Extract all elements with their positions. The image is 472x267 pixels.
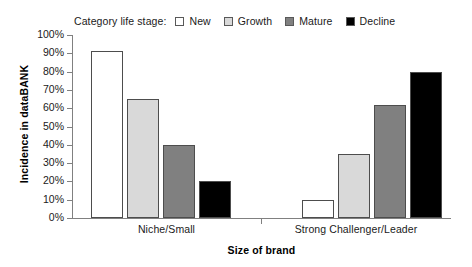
y-axis-tick-label: 80% [43,65,64,77]
legend-label-mature: Mature [299,15,332,27]
y-axis-tick-label: 10% [43,193,64,205]
y-axis-tick-mark [67,72,72,73]
y-axis-tick-label: 70% [43,83,64,95]
bar-chart: Category life stage: New Growth Mature D… [0,0,472,267]
legend-swatch-new [175,17,184,26]
y-axis-tick-mark [67,218,72,219]
y-axis-tick-mark [67,145,72,146]
legend-swatch-mature [285,17,294,26]
y-axis-tick-label: 90% [43,46,64,58]
y-axis-tick-label: 50% [43,120,64,132]
y-axis-tick-mark [67,53,72,54]
legend-entry-new: New [175,15,210,27]
bar-new-strong-challenger-leader [302,200,334,218]
y-axis-tick-label: 30% [43,156,64,168]
y-axis-tick-label: 60% [43,101,64,113]
plot-area: 100%90%80%70%60%50%40%30%20%10%0% [72,35,450,218]
y-axis-title: Incidence in dataBANK [18,44,30,204]
y-axis-tick-mark [67,127,72,128]
legend-entry-mature: Mature [285,15,332,27]
legend-label-growth: Growth [238,15,272,27]
legend-title: Category life stage: [74,15,166,27]
bar-new-niche-small [91,51,123,218]
bar-growth-niche-small [127,99,159,218]
bar-decline-niche-small [199,181,231,218]
bar-mature-strong-challenger-leader [374,105,406,218]
legend-swatch-decline [346,17,355,26]
y-axis-tick-mark [67,163,72,164]
y-axis-tick-mark [67,35,72,36]
x-category-label-niche-small: Niche/Small [72,223,261,235]
y-axis-tick-mark [67,90,72,91]
bar-growth-strong-challenger-leader [338,154,370,218]
bar-decline-strong-challenger-leader [410,72,442,218]
y-axis-tick-label: 100% [37,28,64,40]
y-axis-tick-mark [67,200,72,201]
chart-legend: Category life stage: New Growth Mature D… [74,13,408,29]
y-axis-tick-label: 20% [43,174,64,186]
legend-swatch-growth [224,17,233,26]
y-axis-tick-mark [67,108,72,109]
legend-label-new: New [189,15,210,27]
legend-label-decline: Decline [360,15,396,27]
y-axis-tick-label: 0% [49,211,64,223]
bar-mature-niche-small [163,145,195,218]
y-axis-tick-label: 40% [43,138,64,150]
legend-entry-growth: Growth [224,15,272,27]
x-axis-title: Size of brand [72,244,451,256]
y-axis-tick-mark [67,181,72,182]
legend-entry-decline: Decline [346,15,396,27]
x-category-label-strong-challenger-leader: Strong Challenger/Leader [261,223,451,235]
